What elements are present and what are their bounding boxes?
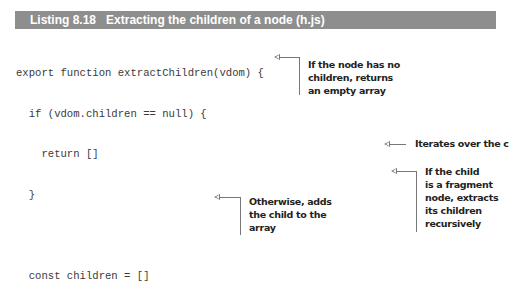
callout-bracket xyxy=(397,171,417,232)
annotation-iterates: Iterates over the children xyxy=(415,137,509,150)
callout-bracket xyxy=(220,197,241,235)
annotation-empty-array: If the node has no children, returns an … xyxy=(308,58,400,97)
annotation-otherwise: Otherwise, adds the child to the array xyxy=(249,195,332,234)
code-line: return [] xyxy=(16,148,372,162)
listing-caption: Listing 8.18Extracting the children of a… xyxy=(30,12,325,28)
code-line: if (vdom.children == null) { xyxy=(16,108,372,122)
listing-header: Listing 8.18Extracting the children of a… xyxy=(15,11,496,29)
callout-bracket xyxy=(280,57,300,95)
callout-line xyxy=(390,144,406,145)
listing-number: Listing 8.18 xyxy=(30,13,96,27)
listing-title: Extracting the children of a node (h.js) xyxy=(106,13,325,27)
code-line: const children = [] xyxy=(16,270,372,284)
annotation-fragment: If the child is a fragment node, extract… xyxy=(425,165,498,230)
